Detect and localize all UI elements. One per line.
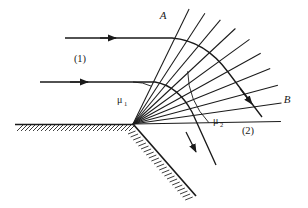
mu1-label: μ 1 xyxy=(117,94,127,107)
mu1-symbol: μ xyxy=(117,94,122,105)
streamline-b-label: B xyxy=(284,93,291,105)
region-2-label: (2) xyxy=(242,125,255,137)
expansion-fan-figure: A B (1) (2) μ 1 μ 2 xyxy=(0,0,308,208)
lower-wall-line xyxy=(133,124,196,196)
streamline-a-outlet-arrow xyxy=(240,89,252,105)
streamline-a-label: A xyxy=(159,9,167,21)
lower-wall-hatching xyxy=(128,131,193,200)
expansion-fan-rays xyxy=(133,9,282,124)
mu2-label: μ 2 xyxy=(213,115,223,128)
streamline-b-outlet-arrow xyxy=(186,132,196,152)
diagram-canvas: A B (1) (2) μ 1 μ 2 xyxy=(0,0,308,208)
mu1-subscript: 1 xyxy=(124,100,127,107)
wall-group xyxy=(15,124,196,200)
fan-ray-7 xyxy=(133,69,270,125)
trailing-mach-line xyxy=(133,121,281,124)
upper-wall-hatching xyxy=(17,125,135,131)
region-1-label: (1) xyxy=(74,53,87,65)
mu2-subscript: 2 xyxy=(220,121,223,128)
mu2-symbol: μ xyxy=(213,115,218,126)
